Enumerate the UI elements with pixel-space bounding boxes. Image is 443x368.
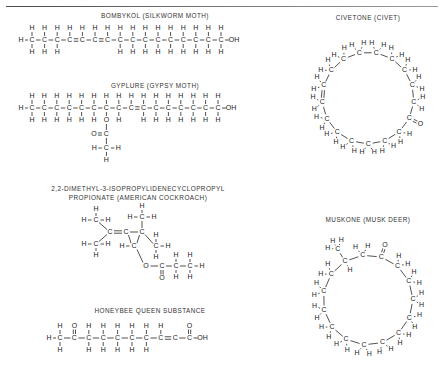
- bond-ring: [410, 286, 412, 295]
- carbon-atom: C: [54, 104, 59, 111]
- hydrogen-atom: H: [218, 48, 223, 55]
- bond-ring: [341, 135, 348, 139]
- bond-h: [320, 313, 321, 314]
- hydrogen-atom: H: [215, 92, 220, 99]
- hydrogen-atom: H: [67, 92, 72, 99]
- bond-methyl: [340, 253, 342, 257]
- terminal-left: H: [46, 334, 51, 341]
- structure-muskone: COCHHCHHCHHCHHCHHCHHCHHCHHCHHCHHCHHCHHCC…: [298, 228, 438, 366]
- hydrogen-atom: H: [342, 44, 347, 51]
- carbon-atom: C: [80, 36, 85, 43]
- bond-h: [417, 296, 418, 297]
- bond-h: [365, 148, 366, 149]
- hydrogen-atom: H: [178, 116, 183, 123]
- hydrogen-atom: H: [324, 130, 329, 137]
- carbon-ring: C: [395, 262, 400, 269]
- hydrogen-atom: H: [319, 323, 324, 330]
- hydrogen-atom: H: [139, 202, 144, 209]
- carbon-atom: C: [130, 36, 135, 43]
- bond-ring: [326, 278, 330, 287]
- hydrogen-atom: H: [116, 92, 121, 99]
- top-divider-rule: [6, 6, 438, 7]
- hydrogen-atom: H: [367, 350, 372, 357]
- carbon-ring: C: [131, 242, 136, 249]
- structure-civetone: CHHCHHCHHCHHCOCHHCHHCHHCHHCHHCHHCHHCHHCH…: [298, 28, 438, 168]
- caption-muskone: MUSKONE (MUSK DEER): [308, 215, 428, 224]
- bond-h: [318, 308, 319, 309]
- hydrogen-atom: H: [168, 24, 173, 31]
- carbon-ring: C: [402, 66, 407, 73]
- carbon-atom: C: [144, 334, 149, 341]
- hydrogen-atom: H: [118, 24, 123, 31]
- carbon-atom: C: [187, 334, 192, 341]
- oxygen-atom: O: [72, 322, 78, 329]
- carbon-ring: C: [380, 338, 385, 345]
- terminal-left: H: [18, 104, 23, 111]
- carbon-ring: C: [357, 49, 362, 56]
- hydrogen-atom: H: [153, 231, 158, 238]
- bond-ring: [400, 270, 406, 278]
- oxygen-carbonyl: O: [159, 274, 165, 281]
- carbon-methyl: C: [153, 242, 158, 249]
- hydrogen-atom: H: [412, 268, 417, 275]
- hydrogen-atom: H: [187, 251, 192, 258]
- hydrogen-atom: H: [130, 48, 135, 55]
- carbon-atom: C: [215, 104, 220, 111]
- hydrogen-atom: H: [314, 279, 319, 286]
- hydrogen-atom: H: [116, 116, 121, 123]
- carbon-ring: C: [360, 251, 365, 258]
- carbon-atom: C: [29, 104, 34, 111]
- hydrogen-atom: H: [151, 213, 156, 220]
- hydrogen-atom: H: [319, 124, 324, 131]
- hydrogen-atom: H: [105, 216, 110, 223]
- carbon-ring: C: [410, 81, 415, 88]
- carbon-carbonyl: C: [159, 262, 164, 269]
- bond-ring: [348, 55, 355, 58]
- bond-ring: [326, 314, 330, 323]
- caption-bombykol: BOMBYKOL (SILKWORM MOTH): [60, 11, 250, 20]
- carbon-methyl: C: [104, 144, 109, 151]
- carbon-ring: C: [322, 306, 327, 313]
- hydrogen-atom: H: [419, 289, 424, 296]
- carbon-ring: C: [361, 341, 366, 348]
- hydrogen-atom: H: [339, 236, 344, 243]
- bond-ring: [386, 335, 394, 340]
- hydrogen-atom: H: [215, 116, 220, 123]
- hydrogen-atom: H: [42, 24, 47, 31]
- bond-ring: [323, 107, 325, 114]
- hydrogen-atom: H: [155, 24, 160, 31]
- carbon-atom: C: [168, 36, 173, 43]
- hydrogen-atom: H: [29, 24, 34, 31]
- carbon-ring: C: [379, 253, 384, 260]
- carbon-atom: C: [191, 104, 196, 111]
- hydrogen-atom: H: [104, 92, 109, 99]
- hydrogen-atom: H: [80, 24, 85, 31]
- bond-ring: [335, 264, 342, 270]
- carbon-atom: C: [187, 262, 192, 269]
- hydrogen-atom: H: [331, 51, 336, 58]
- carbon-isopropylidene: C: [107, 228, 112, 235]
- carbon-ring: C: [407, 314, 412, 321]
- double-bond-carbonyl: [413, 121, 417, 123]
- bond-ring: [373, 142, 381, 143]
- bond-ring: [401, 321, 406, 329]
- hydrogen-atom: H: [407, 130, 412, 137]
- carbon-ring: C: [344, 335, 349, 342]
- oxygen-ester: O: [143, 262, 149, 269]
- double-bond-carbonyl: [382, 248, 383, 252]
- hydrogen-atom: H: [42, 92, 47, 99]
- hydrogen-atom: H: [86, 346, 91, 353]
- carbon-atom: C: [104, 104, 109, 111]
- oxygen-carbonyl: O: [418, 120, 424, 127]
- hydrogen-atom: H: [29, 116, 34, 123]
- oxygen-atom: O: [187, 322, 193, 329]
- carbon-atom: C: [181, 36, 186, 43]
- hydrogen-atom: H: [405, 260, 410, 267]
- hydrogen-atom: H: [104, 156, 109, 163]
- hydrogen-atom: H: [312, 302, 317, 309]
- carbon-methyl: C: [93, 216, 98, 223]
- bond-h: [360, 348, 361, 349]
- bond-h: [346, 144, 347, 145]
- carbon-ring: C: [374, 49, 379, 56]
- bond-ring: [349, 257, 358, 260]
